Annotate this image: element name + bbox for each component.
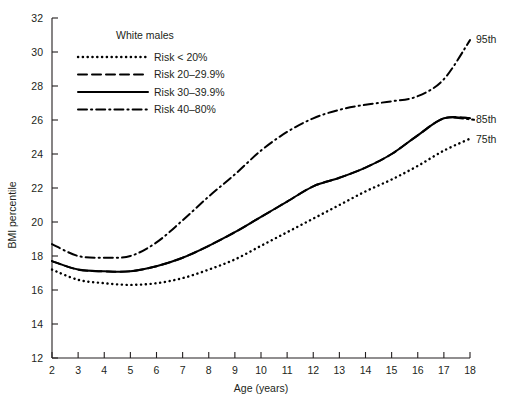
x-tick-label: 14 (360, 364, 372, 376)
curve-solid (52, 117, 470, 272)
y-tick-label: 32 (31, 12, 43, 24)
legend-label: Risk < 20% (154, 51, 207, 63)
x-axis-tick-labels: 23456789101112131415161718 (49, 364, 476, 376)
y-tick-label: 30 (31, 46, 43, 58)
y-tick-label: 24 (31, 148, 43, 160)
x-tick-label: 5 (127, 364, 133, 376)
x-tick-label: 16 (412, 364, 424, 376)
y-tick-label: 22 (31, 182, 43, 194)
x-tick-label: 6 (154, 364, 160, 376)
x-axis-ticks (52, 352, 470, 358)
end-label-p85: 85th (476, 113, 497, 125)
x-tick-label: 4 (101, 364, 107, 376)
chart-legend: White males Risk < 20%Risk 20–29.9%Risk … (78, 29, 225, 115)
y-tick-label: 26 (31, 114, 43, 126)
bmi-percentile-chart: 1214161820222426283032 23456789101112131… (0, 0, 508, 401)
x-tick-label: 2 (49, 364, 55, 376)
curve-dotted (52, 139, 470, 285)
x-tick-label: 12 (307, 364, 319, 376)
x-tick-label: 8 (206, 364, 212, 376)
curve-end-labels: 95th85th75th (476, 33, 497, 146)
y-tick-label: 20 (31, 216, 43, 228)
y-tick-label: 12 (31, 352, 43, 364)
legend-items: Risk < 20%Risk 20–29.9%Risk 30–39.9%Risk… (78, 51, 225, 116)
x-tick-label: 13 (334, 364, 346, 376)
x-tick-label: 11 (282, 364, 293, 376)
x-tick-label: 7 (180, 364, 186, 376)
legend-title: White males (116, 29, 174, 41)
data-curves (52, 40, 474, 285)
x-tick-label: 18 (464, 364, 476, 376)
y-axis-title: BMI percentile (6, 181, 18, 248)
end-label-p95: 95th (476, 33, 497, 45)
y-tick-label: 28 (31, 80, 43, 92)
legend-label: Risk 40–80% (154, 103, 216, 115)
chart-canvas: 1214161820222426283032 23456789101112131… (0, 0, 508, 401)
curve-dashed (52, 117, 470, 272)
x-tick-label: 17 (438, 364, 450, 376)
legend-label: Risk 30–39.9% (154, 86, 225, 98)
y-tick-label: 14 (31, 318, 43, 330)
x-tick-label: 15 (386, 364, 398, 376)
y-axis-tick-labels: 1214161820222426283032 (31, 12, 43, 364)
y-tick-label: 18 (31, 250, 43, 262)
curve-dash-dot (52, 40, 470, 258)
x-tick-label: 3 (75, 364, 81, 376)
legend-label: Risk 20–29.9% (154, 68, 225, 80)
y-axis-ticks (52, 18, 58, 358)
x-axis-title: Age (years) (234, 382, 288, 394)
y-tick-label: 16 (31, 284, 43, 296)
x-tick-label: 9 (232, 364, 238, 376)
end-label-p75: 75th (476, 133, 497, 145)
x-tick-label: 10 (255, 364, 267, 376)
